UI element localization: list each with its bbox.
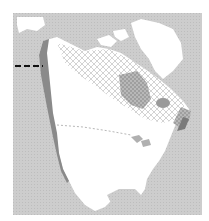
lake [156, 98, 170, 108]
map-frame [13, 13, 202, 215]
north-america-map [13, 13, 202, 215]
